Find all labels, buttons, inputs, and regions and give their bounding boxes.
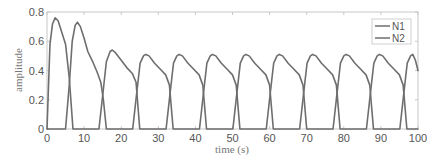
x-tick-label: 60 <box>263 132 275 144</box>
y-tick-label: 0.8 <box>29 6 44 18</box>
x-tick-label: 10 <box>78 132 90 144</box>
y-tick-label: 0.2 <box>29 94 44 106</box>
line-chart: 00.20.40.60.8 0102030405060708090100 tim… <box>0 0 443 160</box>
x-tick-label: 100 <box>409 132 427 144</box>
x-tick-label: 30 <box>152 132 164 144</box>
y-tick-label: 0.4 <box>29 65 44 77</box>
legend-label-n1: N1 <box>392 21 405 32</box>
x-tick-label: 40 <box>189 132 201 144</box>
x-axis-title: time (s) <box>215 143 249 156</box>
x-tick-label: 0 <box>44 132 50 144</box>
y-tick-label: 0.6 <box>29 35 44 47</box>
legend-label-n2: N2 <box>392 33 405 44</box>
x-tick-label: 70 <box>301 132 313 144</box>
y-axis-title: amplitude <box>12 48 24 92</box>
legend: N1 N2 <box>372 19 411 44</box>
x-tick-label: 80 <box>338 132 350 144</box>
x-tick-label: 90 <box>375 132 387 144</box>
x-tick-label: 20 <box>115 132 127 144</box>
